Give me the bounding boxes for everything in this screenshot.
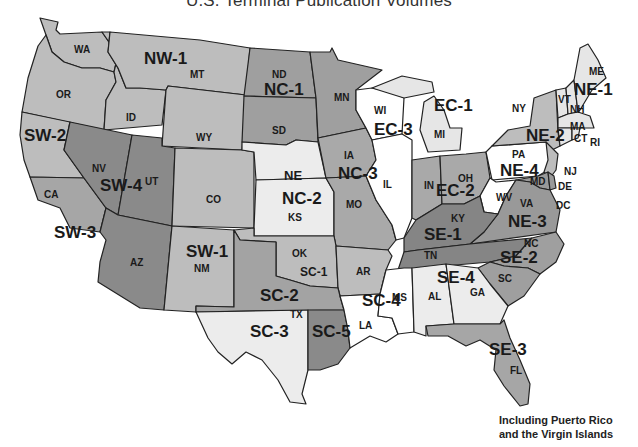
label-sc-4: SC-4 [362,291,401,310]
label-vt: VT [558,94,571,105]
label-ec-2: EC-2 [436,181,475,200]
label-dc: DC [556,200,570,211]
label-sc-1: SC-1 [300,265,328,279]
label-ne-3: NE-3 [508,212,547,231]
label-se-1: SE-1 [424,225,462,244]
label-sc: SC [498,273,512,284]
region-se-3[interactable] [426,320,530,406]
label-sw-3: SW-3 [54,223,96,242]
label-co: CO [206,194,221,205]
label-ec-1: EC-1 [434,96,473,115]
label-sc-2: SC-2 [260,286,299,305]
label-sw-2: SW-2 [24,126,66,145]
label-va: VA [520,198,533,209]
label-ks: KS [288,212,302,223]
state-me[interactable] [574,44,606,112]
label-ar: AR [356,266,371,277]
label-ky: KY [451,213,465,224]
label-ny: NY [512,103,526,114]
label-se-2: SE-2 [500,248,538,267]
state-sd[interactable] [242,96,318,145]
label-tn: TN [424,250,437,261]
label-mt: MT [190,69,204,80]
label-id: ID [126,112,136,123]
footnote-line-2: and the Virgin Islands [499,427,613,441]
label-ct: CT [574,133,587,144]
label-ri: RI [590,137,600,148]
label-ga: GA [470,287,485,298]
label-se-4: SE-4 [437,268,475,287]
label-ia: IA [344,150,354,161]
label-nc-2: NC-2 [282,189,322,208]
label-tx: TX [290,309,303,320]
label-ne-2: NE-2 [526,126,565,145]
label-nj: NJ [564,166,577,177]
label-mn: MN [334,92,350,103]
label-mo: MO [346,199,362,210]
label-sc-3: SC-3 [250,322,289,341]
label-ne-4: NE-4 [500,161,539,180]
label-ut: UT [145,176,158,187]
label-wi: WI [374,105,386,116]
label-al: AL [428,291,441,302]
label-nc-1: NC-1 [264,80,304,99]
label-il: IL [383,179,392,190]
label-nd: ND [272,69,286,80]
label-nv: NV [92,163,106,174]
label-ne-1: NE-1 [574,80,613,99]
label-nh: NH [570,104,584,115]
label-wy: WY [196,132,212,143]
us-map: WA OR ID MT WY ND SD MN WI MI IA NE KS M… [0,0,638,447]
label-wa: WA [74,44,90,55]
state-fl[interactable] [426,320,530,406]
label-mi: MI [434,129,445,140]
state-co[interactable] [172,148,254,228]
label-sd: SD [272,125,286,136]
label-me: ME [589,66,604,77]
label-nm: NM [194,263,210,274]
footnote: Including Puerto Rico and the Virgin Isl… [499,413,613,441]
label-sc-5: SC-5 [312,322,351,341]
label-ma: MA [570,121,586,132]
label-ec-3: EC-3 [374,120,413,139]
label-az: AZ [130,257,143,268]
label-in: IN [424,180,434,191]
label-fl: FL [510,365,522,376]
label-de: DE [558,181,572,192]
footnote-line-1: Including Puerto Rico [499,413,613,427]
label-pa: PA [512,149,525,160]
label-se-3: SE-3 [489,340,527,359]
label-la: LA [359,320,372,331]
label-ca: CA [44,189,58,200]
label-wv: WV [496,192,512,203]
label-nw-1: NW-1 [144,49,187,68]
label-ne: NE [284,168,302,183]
label-nc-3: NC-3 [338,164,378,183]
state-de[interactable] [548,172,556,190]
label-sw-1: SW-1 [186,242,228,261]
label-ok: OK [292,248,308,259]
label-or: OR [56,89,72,100]
label-sw-4: SW-4 [100,176,143,195]
